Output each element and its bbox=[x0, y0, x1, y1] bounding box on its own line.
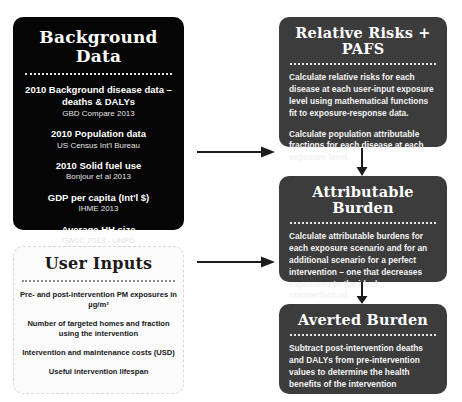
background-data-title: Background Data bbox=[23, 28, 174, 65]
data-source-citation: Bonjour et al 2013 bbox=[23, 172, 174, 182]
data-source-label: GDP per capita (Int'l $) bbox=[23, 192, 174, 204]
arrow-right-icon bbox=[197, 256, 275, 268]
arrow-down-icon bbox=[355, 282, 369, 304]
averted-burden-paragraph: Subtract post-intervention deaths and DA… bbox=[289, 343, 437, 391]
attributable-burden-divider bbox=[290, 222, 436, 224]
list-item: Pre- and post-intervention PM exposures … bbox=[20, 290, 177, 310]
user-inputs-list: Pre- and post-intervention PM exposures … bbox=[20, 290, 177, 377]
attributable-burden-title: Attributable Burden bbox=[289, 184, 437, 216]
relative-risks-panel: Relative Risks + PAFS Calculate relative… bbox=[279, 17, 447, 147]
relative-risks-title: Relative Risks + PAFS bbox=[289, 25, 437, 57]
list-item: Intervention and maintenance costs (USD) bbox=[20, 348, 177, 358]
flow-diagram: Background Data 2010 Background disease … bbox=[0, 0, 462, 402]
averted-burden-panel: Averted Burden Subtract post-interventio… bbox=[279, 304, 447, 394]
background-data-panel: Background Data 2010 Background disease … bbox=[13, 17, 184, 230]
relative-risks-paragraph: Calculate relative risks for each diseas… bbox=[289, 72, 437, 120]
list-item: 2010 Population data US Census Int'l Bur… bbox=[23, 128, 174, 151]
user-inputs-panel: User Inputs Pre- and post-intervention P… bbox=[13, 246, 184, 394]
averted-burden-title: Averted Burden bbox=[289, 312, 437, 328]
arrow-right-icon bbox=[197, 146, 275, 158]
list-item: 2010 Background disease data – deaths & … bbox=[23, 84, 174, 119]
data-source-citation: GBD Compare 2013 bbox=[23, 109, 174, 119]
user-inputs-title: User Inputs bbox=[20, 255, 177, 273]
relative-risks-divider bbox=[290, 63, 436, 65]
averted-burden-divider bbox=[290, 334, 436, 336]
arrow-down-icon bbox=[355, 148, 369, 176]
data-source-label: 2010 Background disease data – deaths & … bbox=[23, 84, 174, 107]
list-item: Average HH size GACC 2013 - UNPD bbox=[23, 224, 174, 247]
data-source-label: 2010 Solid fuel use bbox=[23, 160, 174, 172]
list-item: GDP per capita (Int'l $) IHME 2013 bbox=[23, 192, 174, 215]
data-source-label: Average HH size bbox=[23, 224, 174, 236]
data-source-citation: IHME 2013 bbox=[23, 204, 174, 214]
user-inputs-divider bbox=[22, 280, 175, 282]
data-source-label: 2010 Population data bbox=[23, 128, 174, 140]
data-source-citation: US Census Int'l Bureau bbox=[23, 141, 174, 151]
list-item: Number of targeted homes and fraction us… bbox=[20, 319, 177, 339]
background-data-list: 2010 Background disease data – deaths & … bbox=[23, 84, 174, 246]
attributable-burden-panel: Attributable Burden Calculate attributab… bbox=[279, 176, 447, 282]
background-data-divider bbox=[25, 73, 172, 75]
list-item: Useful intervention lifespan bbox=[20, 367, 177, 377]
list-item: 2010 Solid fuel use Bonjour et al 2013 bbox=[23, 160, 174, 183]
